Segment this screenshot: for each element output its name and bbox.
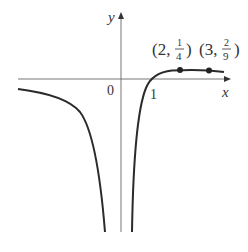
svg-text:): ) — [186, 40, 192, 59]
x-axis-arrow-icon — [224, 76, 231, 82]
point-2-quarter — [177, 67, 183, 73]
origin-label: 0 — [107, 83, 114, 98]
y-axis-arrow-icon — [118, 12, 124, 19]
tick-label-one: 1 — [150, 87, 157, 102]
x-axis-label: x — [221, 84, 229, 100]
svg-text:1: 1 — [177, 37, 182, 48]
point2-label: (3, 2 9 ) — [199, 37, 240, 62]
svg-text:4: 4 — [176, 50, 182, 62]
svg-text:(3,: (3, — [199, 40, 217, 59]
function-graph: y x 0 1 (2, 1 4 ) (3, 2 9 ) — [0, 0, 248, 252]
curve-right-branch — [132, 70, 224, 232]
svg-text:(2,: (2, — [152, 40, 170, 59]
y-axis-label: y — [106, 9, 115, 25]
svg-text:): ) — [234, 40, 240, 59]
point1-label: (2, 1 4 ) — [152, 37, 192, 62]
svg-text:2: 2 — [224, 37, 229, 48]
curve-left-branch — [18, 89, 105, 232]
svg-text:9: 9 — [223, 50, 229, 62]
point-3-two-ninths — [206, 68, 212, 74]
